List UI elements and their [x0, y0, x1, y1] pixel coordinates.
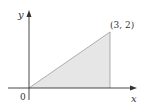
x-axis-label: x	[131, 93, 137, 104]
origin-label: 0	[20, 92, 26, 102]
point-label: (3, 2)	[110, 20, 134, 30]
x-axis-arrow-icon	[130, 86, 137, 91]
y-axis-arrow-icon	[27, 10, 32, 17]
coordinate-diagram: y 0 x (3, 2)	[0, 0, 144, 105]
y-axis-label: y	[17, 9, 24, 20]
